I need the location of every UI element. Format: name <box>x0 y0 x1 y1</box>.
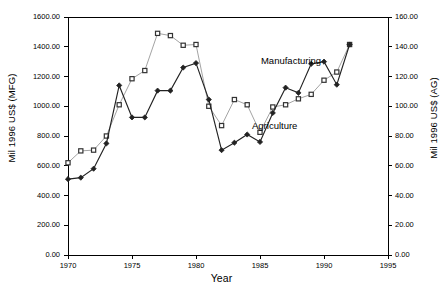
data-point <box>117 83 122 88</box>
data-point <box>66 161 70 165</box>
data-point <box>104 141 109 146</box>
data-point <box>334 82 339 87</box>
data-point <box>309 92 313 96</box>
data-point <box>283 85 288 90</box>
data-point <box>232 97 236 101</box>
data-point <box>168 33 172 37</box>
data-point <box>181 43 185 47</box>
data-point <box>79 149 83 153</box>
plot-area <box>0 0 443 293</box>
series-layer <box>65 31 352 181</box>
data-point <box>65 177 70 182</box>
data-point <box>257 139 262 144</box>
data-point <box>322 78 326 82</box>
data-point <box>129 115 134 120</box>
data-point <box>335 70 339 74</box>
data-point <box>117 103 121 107</box>
data-point <box>168 88 173 93</box>
data-point <box>156 31 160 35</box>
data-point <box>193 61 198 66</box>
data-point <box>194 42 198 46</box>
data-point <box>296 97 300 101</box>
data-point <box>155 88 160 93</box>
axis-ticks <box>64 17 392 259</box>
chart-container: Mil 1996 US$ (MFG) Mil 1996 US$ (AG) Yea… <box>0 0 443 293</box>
series-label-manufacturing: Manufacturing <box>261 55 321 66</box>
data-point <box>284 103 288 107</box>
axis-lines <box>68 17 388 255</box>
data-point <box>142 115 147 120</box>
data-point <box>130 77 134 81</box>
data-point <box>271 105 275 109</box>
data-point <box>220 123 224 127</box>
data-point <box>296 90 301 95</box>
data-point <box>92 148 96 152</box>
data-point <box>321 59 326 64</box>
data-point <box>143 68 147 72</box>
data-point <box>219 148 224 153</box>
data-point <box>245 103 249 107</box>
data-point <box>181 65 186 70</box>
series-label-agriculture: Agriculture <box>252 120 297 131</box>
